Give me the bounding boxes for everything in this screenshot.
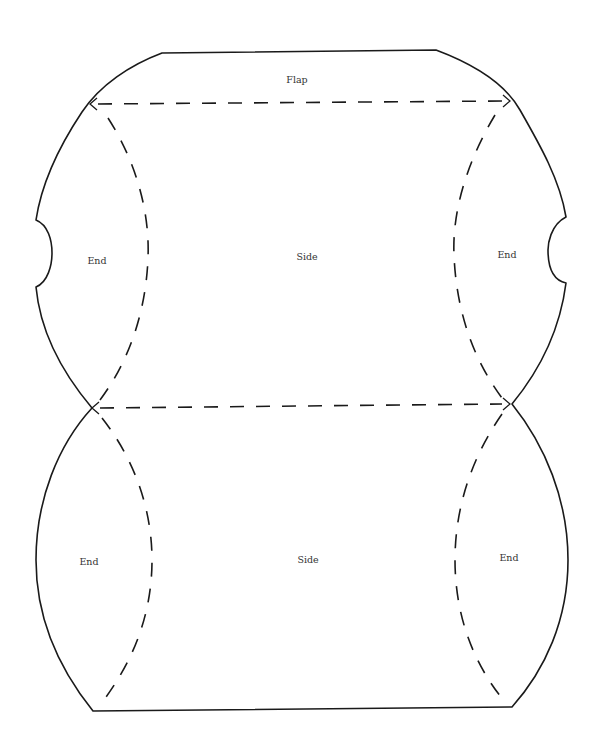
pillow-box-template: Flap Side End End Side End End [0,0,600,747]
arrow-mid-right-icon [503,398,510,410]
middle-fold-line [100,404,502,408]
arrow-top-right-icon [503,95,510,107]
top-right-end-fold [454,115,502,398]
top-right-end-label: End [497,249,516,260]
bottom-left-end-label: End [79,556,98,567]
top-side-label: Side [296,251,318,262]
flap-label: Flap [286,74,307,85]
arrow-mid-left-icon [92,402,99,414]
top-left-end-fold [100,118,148,400]
outer-cut-line [36,50,568,711]
bottom-side-label: Side [297,554,319,565]
top-left-end-label: End [87,255,106,266]
bottom-left-end-fold [100,418,152,705]
bottom-right-end-fold [455,414,505,702]
bottom-right-end-label: End [499,552,518,563]
top-fold-line [98,101,502,104]
